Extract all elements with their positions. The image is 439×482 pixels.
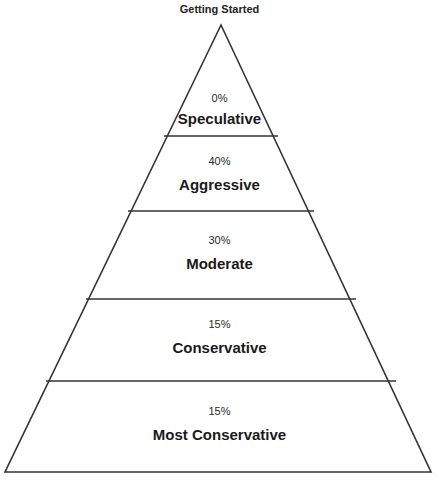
tier-speculative: 0% Speculative (0, 92, 439, 127)
tier-percent: 30% (0, 234, 439, 246)
tier-label: Moderate (0, 255, 439, 272)
tier-label: Aggressive (0, 176, 439, 193)
tier-percent: 40% (0, 155, 439, 167)
tier-most-conservative: 15% Most Conservative (0, 405, 439, 443)
tier-percent: 15% (0, 318, 439, 330)
tier-moderate: 30% Moderate (0, 234, 439, 272)
tier-label: Conservative (0, 339, 439, 356)
tier-aggressive: 40% Aggressive (0, 155, 439, 193)
tier-label: Most Conservative (0, 426, 439, 443)
tier-conservative: 15% Conservative (0, 318, 439, 356)
tier-percent: 15% (0, 405, 439, 417)
tier-label: Speculative (0, 110, 439, 127)
tier-percent: 0% (0, 92, 439, 104)
